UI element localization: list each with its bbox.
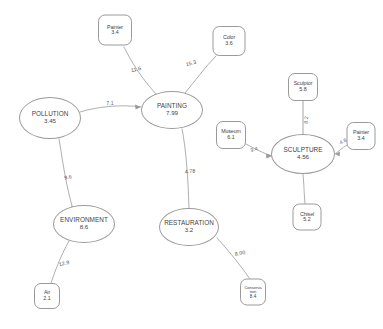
node-sculpture-value: 4.56 xyxy=(297,154,309,161)
node-pollution-value: 3.45 xyxy=(44,118,56,125)
edge-pollution-painting xyxy=(80,106,141,112)
node-sculpture[interactable]: SCULPTURE 4.56 xyxy=(271,134,335,174)
node-painting[interactable]: PAINTING 7.99 xyxy=(141,91,203,129)
node-conservation[interactable]: Conserva tion 8.4 xyxy=(240,279,266,306)
node-environment-value: 8.6 xyxy=(80,224,89,231)
node-sculptor-value: 5.8 xyxy=(299,87,306,93)
node-conservation-label: Conserva tion xyxy=(244,285,261,294)
node-museum-value: 6.1 xyxy=(227,135,234,141)
edge-pollution-environment xyxy=(59,139,72,206)
node-painter-right-value: 3.4 xyxy=(357,136,364,142)
node-color[interactable]: Color 3.6 xyxy=(213,26,246,56)
edge-restauration-conservation xyxy=(217,238,250,279)
node-painter-right[interactable]: Painter 3.4 xyxy=(347,122,376,150)
node-painting-value: 7.99 xyxy=(166,110,178,117)
edge-label-painting-restauration: 4.78 xyxy=(185,168,196,175)
node-pollution[interactable]: POLLUTION 3.45 xyxy=(19,97,81,139)
node-museum[interactable]: Museum 6.1 xyxy=(216,121,246,149)
node-color-value: 3.6 xyxy=(225,41,232,47)
node-painter-top-value: 3.4 xyxy=(111,30,118,36)
node-air-value: 2.1 xyxy=(43,296,50,302)
node-painter-top[interactable]: Painter 3.4 xyxy=(98,15,132,46)
diagram-canvas: Painter 3.4 Color 3.6 PAINTING 7.99 POLL… xyxy=(0,0,383,329)
node-conservation-value: 8.4 xyxy=(250,294,256,299)
node-restauration[interactable]: RESTAURATION 3.2 xyxy=(159,208,219,246)
node-restauration-value: 3.2 xyxy=(185,227,194,234)
edge-painter-right-sculpture xyxy=(335,145,347,154)
edge-chisel-sculpture xyxy=(303,174,305,204)
node-air[interactable]: Air 2.1 xyxy=(34,283,60,309)
node-sculptor[interactable]: Sculptor 5.8 xyxy=(288,73,318,101)
node-environment[interactable]: ENVIRONMENT 8.6 xyxy=(53,205,115,243)
node-chisel-value: 5.2 xyxy=(303,217,310,223)
edge-label-pollution-painting: 7.1 xyxy=(106,100,114,106)
edge-label-pollution-environment: 9.6 xyxy=(64,174,72,181)
node-chisel[interactable]: Chisel 5.2 xyxy=(293,204,322,231)
edge-label-sculptor-sculpture: 8.2 xyxy=(303,116,309,124)
